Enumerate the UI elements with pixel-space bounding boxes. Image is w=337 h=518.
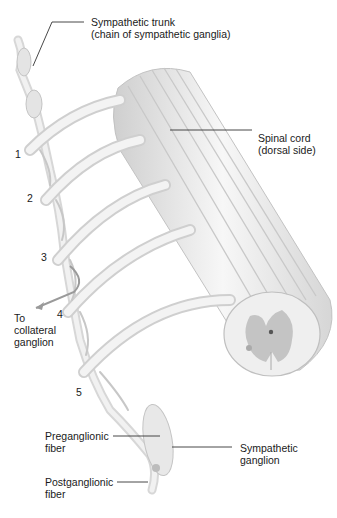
spinal-nerve-4 <box>68 230 190 312</box>
label-collateral-ganglion: To collateral ganglion <box>14 312 56 348</box>
leader-sympathetic-trunk <box>33 22 84 66</box>
label-preganglionic-fiber: Preganglionic fiber <box>45 430 109 454</box>
nerve-number-4: 4 <box>57 308 63 320</box>
spinal-cord-cross-section <box>224 292 320 376</box>
nerve-number-2: 2 <box>27 192 33 204</box>
label-sympathetic-ganglion: Sympathetic ganglion <box>240 442 298 466</box>
nerve-number-1: 1 <box>15 148 21 160</box>
nerve-number-5: 5 <box>76 386 82 398</box>
spinal-nerve-2 <box>46 140 140 200</box>
label-spinal-cord: Spinal cord (dorsal side) <box>258 132 316 156</box>
spinal-nerve-5 <box>84 300 230 372</box>
nerve-number-3: 3 <box>41 251 47 263</box>
label-sympathetic-trunk: Sympathetic trunk (chain of sympathetic … <box>91 16 231 40</box>
label-postganglionic-fiber: Postganglionic fiber <box>45 476 113 500</box>
